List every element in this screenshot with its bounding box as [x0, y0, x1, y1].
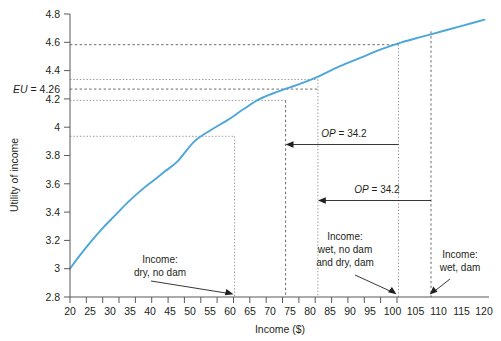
x-tick-label: 85	[324, 305, 336, 317]
x-axis-title: Income ($)	[255, 323, 305, 335]
x-tick-label: 40	[144, 305, 156, 317]
x-tick-label: 45	[164, 305, 176, 317]
y-tick-label: 4	[54, 121, 60, 133]
x-tick-label: 20	[64, 305, 76, 317]
x-tick-label: 105	[407, 305, 425, 317]
x-tick-label: 95	[364, 305, 376, 317]
x-tick-label: 35	[124, 305, 136, 317]
x-tick-label: 100	[384, 305, 402, 317]
x-tick-label: 120	[475, 305, 493, 317]
x-axis-ticks	[70, 297, 397, 303]
chart-background	[0, 0, 501, 341]
x-tick-label: 50	[184, 305, 196, 317]
chart-canvas: 2.8 3 3.2 3.4 3.6 3.8 4 4.2 4.4 4.6 4.8 …	[0, 0, 501, 341]
y-tick-label: 3.4	[45, 206, 60, 218]
x-tick-label: 70	[264, 305, 276, 317]
x-tick-label: 60	[224, 305, 236, 317]
callout-dry-no-dam-line1: Income:	[142, 254, 178, 265]
y-tick-label: 4.4	[45, 64, 60, 76]
y-tick-label: 4.8	[45, 8, 60, 20]
callout-right-line1: Income:	[442, 249, 478, 260]
y-tick-label: 3.2	[45, 234, 60, 246]
x-tick-label: 25	[84, 305, 96, 317]
y-tick-label: 3	[54, 262, 60, 274]
utility-of-income-chart: 2.8 3 3.2 3.4 3.6 3.8 4 4.2 4.4 4.6 4.8 …	[0, 0, 501, 341]
op-upper-label: OP = 34.2	[321, 128, 367, 139]
x-tick-label: 75	[284, 305, 296, 317]
x-tick-label: 80	[304, 305, 316, 317]
y-tick-label: 3.6	[45, 178, 60, 190]
y-tick-label: 4.6	[45, 36, 60, 48]
x-tick-label: 55	[204, 305, 216, 317]
callout-dry-no-dam-line2: dry, no dam	[134, 267, 186, 278]
callout-mid-line2: wet, no dam	[317, 244, 372, 255]
x-tick-label: 30	[104, 305, 116, 317]
y-tick-label: 3.8	[45, 149, 60, 161]
x-tick-label: 65	[244, 305, 256, 317]
y-axis-title: Utility of income	[8, 138, 20, 212]
x-tick-label: 90	[344, 305, 356, 317]
callout-right-line2: wet, dam	[439, 262, 481, 273]
y-tick-label: 2.8	[45, 291, 60, 303]
x-tick-label: 115	[453, 305, 470, 317]
callout-mid-line1: Income:	[327, 231, 363, 242]
callout-mid-line3: and dry, dam	[316, 257, 374, 268]
op-lower-label: OP = 34.2	[354, 184, 400, 195]
x-tick-label: 110	[430, 305, 447, 317]
eu-value-label: EU = 4.26	[13, 83, 60, 95]
